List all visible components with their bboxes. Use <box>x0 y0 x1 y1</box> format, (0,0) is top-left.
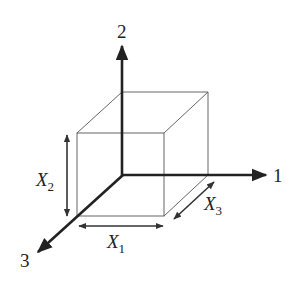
axis-3-label: 3 <box>20 250 30 271</box>
axis-2-label: 2 <box>117 21 127 42</box>
box-depth-top-left <box>77 92 122 133</box>
axis-1-label: 1 <box>273 165 283 186</box>
coordinate-box-diagram: 2 1 3 X2 X1 X3 <box>0 0 301 288</box>
box-depth-top-right <box>164 92 208 133</box>
axes <box>38 46 266 252</box>
box-depth-bottom-right <box>164 175 208 216</box>
x1-label: X1 <box>106 231 125 256</box>
dimension-arrows <box>67 135 214 226</box>
x2-label: X2 <box>35 169 54 194</box>
x3-label: X3 <box>203 193 222 218</box>
